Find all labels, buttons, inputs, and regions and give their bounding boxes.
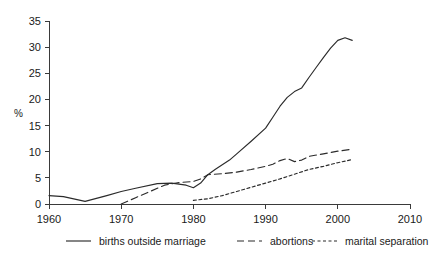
y-tick-label: 0	[35, 198, 41, 210]
y-axis-ticks: 05101520253035	[29, 15, 49, 210]
x-axis-ticks: 196019701980199020002010	[37, 204, 422, 225]
line-chart: 05101520253035%196019701980199020002010b…	[0, 0, 442, 260]
x-tick-label: 2000	[326, 213, 350, 225]
x-tick-label: 1970	[109, 213, 133, 225]
series-line-0	[49, 38, 352, 202]
legend-label-1: abortions	[270, 235, 313, 247]
chart-axes	[49, 21, 410, 204]
chart-series-group	[49, 38, 352, 204]
y-tick-label: 35	[29, 15, 41, 27]
series-line-1	[121, 149, 352, 204]
chart-legend: births outside marriageabortionsmarital …	[66, 235, 429, 247]
legend-label-2: marital separation	[345, 235, 429, 247]
y-axis-title: %	[14, 108, 23, 119]
axis-lines	[49, 21, 410, 204]
y-tick-label: 15	[29, 120, 41, 132]
x-tick-label: 2010	[398, 213, 422, 225]
x-tick-label: 1980	[181, 213, 205, 225]
y-tick-label: 30	[29, 41, 41, 53]
y-tick-label: 20	[29, 93, 41, 105]
y-tick-label: 25	[29, 67, 41, 79]
x-tick-label: 1960	[37, 213, 61, 225]
y-tick-label: 10	[29, 146, 41, 158]
chart-figure: 05101520253035%196019701980199020002010b…	[0, 0, 442, 260]
x-tick-label: 1990	[253, 213, 277, 225]
legend-label-0: births outside marriage	[99, 235, 206, 247]
y-tick-label: 5	[35, 172, 41, 184]
series-line-2	[193, 160, 352, 201]
